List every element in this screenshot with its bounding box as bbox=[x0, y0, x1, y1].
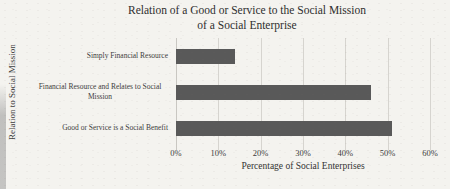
x-tick-label: 20% bbox=[253, 148, 269, 158]
x-tick-label: 40% bbox=[338, 148, 354, 158]
bar-1 bbox=[176, 49, 235, 64]
plot-area bbox=[176, 38, 430, 146]
category-label-text: Simply Financial Resource bbox=[87, 51, 168, 61]
gridline bbox=[430, 38, 431, 150]
bar-3 bbox=[176, 121, 392, 136]
x-tick-label: 10% bbox=[211, 148, 227, 158]
x-tick-label: 30% bbox=[295, 148, 311, 158]
category-label: Financial Resource and Relates to Social… bbox=[26, 74, 168, 110]
category-label: Simply Financial Resource bbox=[26, 38, 168, 74]
bar-2 bbox=[176, 85, 371, 100]
x-tick-label: 60% bbox=[422, 148, 438, 158]
category-label-text: Good or Service is a Social Benefit bbox=[62, 123, 168, 133]
chart-title-line1: Relation of a Good or Service to the Soc… bbox=[48, 3, 446, 18]
category-label-text: Financial Resource and Relates to Social… bbox=[32, 82, 168, 102]
x-tick-label: 0% bbox=[170, 148, 181, 158]
chart-title: Relation of a Good or Service to the Soc… bbox=[48, 3, 446, 32]
x-axis-title: Percentage of Social Enterprises bbox=[176, 161, 430, 171]
x-axis-tick-labels: 0%10%20%30%40%50%60% bbox=[176, 148, 430, 159]
y-axis-title: Relation to Social Mission bbox=[4, 36, 19, 148]
category-axis-labels: Simply Financial ResourceFinancial Resou… bbox=[26, 38, 172, 146]
scanned-chart-page: Relation of a Good or Service to the Soc… bbox=[0, 0, 450, 189]
category-label: Good or Service is a Social Benefit bbox=[26, 110, 168, 146]
x-tick-label: 50% bbox=[380, 148, 396, 158]
chart-title-line2: of a Social Enterprise bbox=[48, 18, 446, 33]
